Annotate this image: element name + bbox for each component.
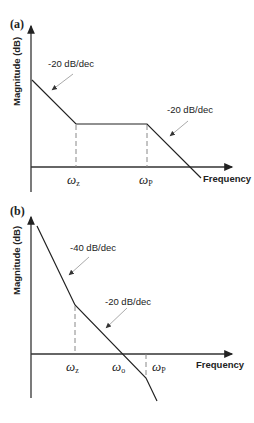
panel-b-x-axis-label: Frequency [196, 359, 245, 370]
panel-a-slope-pointer-2 [170, 121, 188, 136]
panel-b: (b) Magnitude (dB) Frequency -40 dB/dec … [10, 204, 245, 401]
panel-a-wz-label: ωz [67, 172, 80, 188]
panel-b-slope-pointer-1 [69, 257, 89, 275]
panel-b-wo-label: ωo [112, 359, 125, 375]
panel-a-y-axis-label: Magnitude (dB) [11, 37, 22, 106]
panel-a-label: (a) [10, 17, 24, 31]
bode-diagram: (a) Magnitude (dB) Frequency -20 dB/dec … [0, 0, 254, 423]
panel-b-slope-label-2: -20 dB/dec [105, 296, 151, 307]
panel-a-x-axis-label: Frequency [203, 173, 252, 184]
panel-b-slope-label-1: -40 dB/dec [70, 242, 116, 253]
panel-a-slope-label-1: -20 dB/dec [48, 58, 94, 69]
panel-a-magnitude-curve [32, 80, 201, 178]
panel-b-slope-pointer-2 [106, 308, 127, 328]
panel-b-wz-label: ωz [66, 359, 79, 375]
panel-b-label: (b) [10, 204, 25, 218]
panel-b-y-axis-label: Magnitude (dB) [11, 226, 22, 295]
panel-a: (a) Magnitude (dB) Frequency -20 dB/dec … [10, 17, 252, 192]
panel-b-wp-label: ωP [152, 359, 166, 375]
panel-a-wp-label: ωP [139, 172, 153, 188]
panel-a-slope-label-2: -20 dB/dec [167, 104, 213, 115]
panel-a-slope-pointer-1 [52, 74, 73, 90]
